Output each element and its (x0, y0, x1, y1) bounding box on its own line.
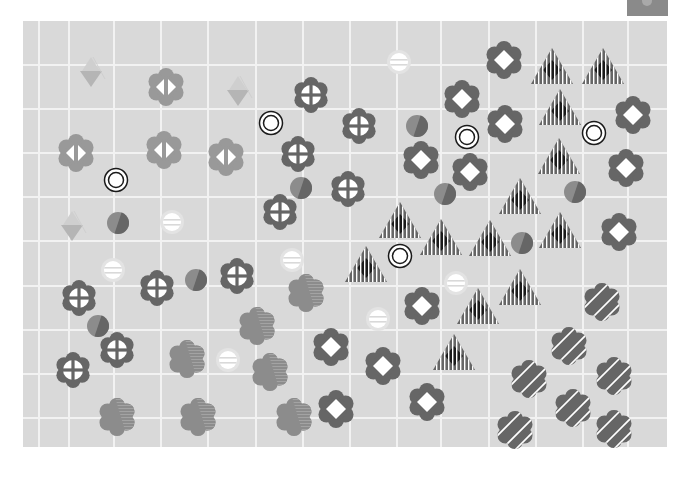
cross-flower-piece-icon[interactable] (54, 351, 92, 389)
stripe-flower-piece-icon[interactable] (509, 359, 549, 399)
tri-stripe-piece-icon[interactable] (344, 245, 388, 283)
half-flower-piece-icon[interactable] (167, 339, 207, 379)
diamond-flower-piece-icon[interactable] (485, 104, 525, 144)
half-flower-piece-icon[interactable] (178, 397, 218, 437)
ring-piece-icon[interactable] (103, 167, 129, 193)
diamond-flower-piece-icon[interactable] (606, 148, 646, 188)
stripe-flower-piece-icon[interactable] (495, 410, 535, 450)
half-dot-piece-icon[interactable] (86, 314, 110, 338)
tri-stripe-piece-icon[interactable] (537, 137, 581, 175)
stripe-flower-piece-icon[interactable] (553, 388, 593, 428)
grid-line-horizontal (23, 285, 667, 287)
tri-down-piece-icon[interactable] (218, 72, 258, 112)
tri-stripe-piece-icon[interactable] (538, 211, 582, 249)
half-flower-piece-icon[interactable] (237, 306, 277, 346)
lr-flower-piece-icon[interactable] (144, 130, 184, 170)
cross-flower-piece-icon[interactable] (329, 170, 367, 208)
menu-button[interactable] (627, 0, 668, 16)
diamond-flower-piece-icon[interactable] (484, 40, 524, 80)
tri-stripe-piece-icon[interactable] (419, 218, 463, 256)
bar-dot-piece-icon[interactable] (386, 49, 412, 75)
tri-stripe-piece-icon[interactable] (456, 287, 500, 325)
grid-line-vertical (38, 21, 40, 447)
tri-stripe-piece-icon[interactable] (498, 268, 542, 306)
cross-flower-piece-icon[interactable] (218, 257, 256, 295)
half-dot-piece-icon[interactable] (563, 180, 587, 204)
diamond-flower-piece-icon[interactable] (613, 95, 653, 135)
half-flower-piece-icon[interactable] (286, 273, 326, 313)
lr-flower-piece-icon[interactable] (56, 133, 96, 173)
half-flower-piece-icon[interactable] (97, 397, 137, 437)
half-dot-piece-icon[interactable] (184, 268, 208, 292)
tri-stripe-piece-icon[interactable] (581, 47, 625, 85)
tri-stripe-piece-icon[interactable] (378, 201, 422, 239)
half-dot-piece-icon[interactable] (405, 114, 429, 138)
ring-piece-icon[interactable] (258, 110, 284, 136)
tri-down-piece-icon[interactable] (71, 53, 111, 93)
lr-flower-piece-icon[interactable] (206, 137, 246, 177)
ring-piece-icon[interactable] (454, 124, 480, 150)
bar-dot-piece-icon[interactable] (215, 347, 241, 373)
bar-dot-piece-icon[interactable] (159, 209, 185, 235)
tri-stripe-piece-icon[interactable] (538, 88, 582, 126)
stripe-flower-piece-icon[interactable] (549, 326, 589, 366)
bar-dot-piece-icon[interactable] (279, 247, 305, 273)
diamond-flower-piece-icon[interactable] (311, 327, 351, 367)
lr-flower-piece-icon[interactable] (146, 67, 186, 107)
tri-stripe-piece-icon[interactable] (432, 333, 476, 371)
menu-icon (642, 0, 652, 6)
diamond-flower-piece-icon[interactable] (599, 212, 639, 252)
grid-line-horizontal (23, 373, 667, 375)
bar-dot-piece-icon[interactable] (100, 257, 126, 283)
half-flower-piece-icon[interactable] (250, 352, 290, 392)
ring-piece-icon[interactable] (387, 243, 413, 269)
cross-flower-piece-icon[interactable] (279, 135, 317, 173)
diamond-flower-piece-icon[interactable] (442, 79, 482, 119)
tri-down-piece-icon[interactable] (52, 207, 92, 247)
diamond-flower-piece-icon[interactable] (402, 286, 442, 326)
half-dot-piece-icon[interactable] (510, 231, 534, 255)
stripe-flower-piece-icon[interactable] (582, 282, 622, 322)
diamond-flower-piece-icon[interactable] (407, 382, 447, 422)
cross-flower-piece-icon[interactable] (340, 107, 378, 145)
diamond-flower-piece-icon[interactable] (316, 389, 356, 429)
grid-line-vertical (349, 21, 351, 447)
half-flower-piece-icon[interactable] (274, 397, 314, 437)
half-dot-piece-icon[interactable] (289, 176, 313, 200)
tri-stripe-piece-icon[interactable] (468, 219, 512, 257)
stripe-flower-piece-icon[interactable] (594, 356, 634, 396)
cross-flower-piece-icon[interactable] (138, 269, 176, 307)
half-dot-piece-icon[interactable] (106, 211, 130, 235)
diamond-flower-piece-icon[interactable] (450, 152, 490, 192)
stripe-flower-piece-icon[interactable] (594, 409, 634, 449)
bar-dot-piece-icon[interactable] (365, 306, 391, 332)
ring-piece-icon[interactable] (581, 120, 607, 146)
cross-flower-piece-icon[interactable] (60, 279, 98, 317)
diamond-flower-piece-icon[interactable] (363, 346, 403, 386)
diamond-flower-piece-icon[interactable] (401, 140, 441, 180)
cross-flower-piece-icon[interactable] (292, 76, 330, 114)
grid-line-vertical (207, 21, 209, 447)
tri-stripe-piece-icon[interactable] (498, 177, 542, 215)
tri-stripe-piece-icon[interactable] (530, 47, 574, 85)
